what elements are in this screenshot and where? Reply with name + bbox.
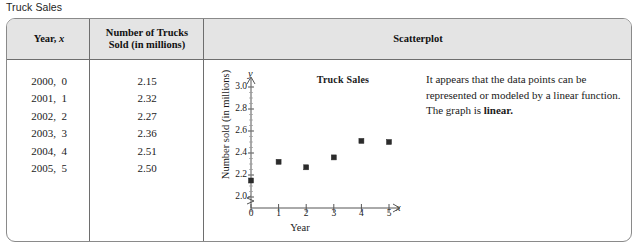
table-cell-value: 2.27 [91, 108, 203, 125]
table-cell-year: 2001, 1 [9, 90, 89, 107]
table-cell-year: 2002, 2 [9, 108, 89, 125]
scatterplot-cell: Truck Sales Number sold (in millions) Ye… [204, 60, 632, 242]
column-header-year-text: Year, [34, 33, 57, 44]
year-column: 2000, 0 2001, 1 2002, 2 2003, 3 2004, 4 … [9, 73, 89, 177]
column-header-year: Year, x [9, 19, 89, 59]
column-header-number-line1: Number of Trucks [106, 27, 188, 38]
explanation-text: It appears that the data points can be r… [426, 72, 622, 119]
scatterplot: Truck Sales Number sold (in millions) Ye… [207, 62, 412, 240]
table-cell-value: 2.50 [91, 160, 203, 177]
chart-data-points [249, 138, 392, 183]
table-cell-value: 2.32 [91, 90, 203, 107]
column-header-number-sold: Number of Trucks Sold (in millions) [91, 19, 203, 59]
table-cell-value: 2.15 [91, 73, 203, 90]
chart-data-point [276, 159, 281, 164]
table-cell-value: 2.51 [91, 143, 203, 160]
chart-data-point [249, 178, 254, 183]
explanation-paragraph-2-prefix: The graph is [426, 104, 484, 116]
chart-data-point [331, 155, 336, 160]
column-header-number-line2: Sold (in millions) [109, 39, 185, 50]
value-column: 2.15 2.32 2.27 2.36 2.51 2.50 [91, 73, 203, 177]
page-title: Truck Sales [6, 1, 62, 13]
table-header-row: Year, x Number of Trucks Sold (in millio… [7, 19, 631, 60]
column-header-scatterplot: Scatterplot [205, 19, 631, 59]
column-header-year-variable: x [59, 33, 64, 44]
table-cell-value: 2.36 [91, 125, 203, 142]
chart-data-point [387, 140, 392, 145]
table-cell-year: 2005, 5 [9, 160, 89, 177]
chart-axes [247, 77, 400, 212]
table-cell-year: 2003, 3 [9, 125, 89, 142]
chart-canvas [207, 62, 412, 240]
explanation-paragraph-1: It appears that the data points can be r… [426, 72, 622, 103]
table-cell-year: 2000, 0 [9, 73, 89, 90]
table-cell-year: 2004, 4 [9, 143, 89, 160]
explanation-paragraph-2: The graph is linear. [426, 103, 622, 119]
chart-data-point [304, 165, 309, 170]
data-table-card: Year, x Number of Trucks Sold (in millio… [6, 18, 632, 242]
chart-data-point [359, 138, 364, 143]
explanation-emphasis: linear. [484, 104, 513, 116]
